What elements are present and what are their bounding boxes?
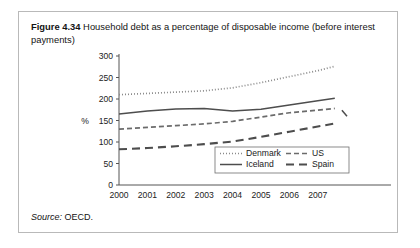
x-axis-tick-label: 2003 [195, 190, 214, 200]
source-value: OECD. [65, 212, 94, 222]
x-axis-tick-label: 2000 [109, 190, 128, 200]
figure-caption: Figure 4.34 Household debt as a percenta… [31, 20, 383, 46]
y-axis-tick-label: 100 [99, 137, 114, 147]
y-axis-tick-label: 300 [99, 51, 114, 61]
y-axis-tick-label: 150 [99, 116, 114, 126]
y-axis-tick-group: 050100150200250300 [99, 51, 119, 190]
series-endpoint-marker-iceland [342, 110, 347, 116]
figure-container: Figure 4.34 Household debt as a percenta… [18, 11, 398, 233]
figure-number: Figure 4.34 [31, 21, 81, 32]
line-chart: 050100150200250300 200020012002200320042… [19, 48, 397, 208]
legend-label-iceland: Iceland [246, 159, 274, 169]
legend-label-spain: Spain [312, 159, 334, 169]
y-axis-tick-label: 0 [108, 180, 113, 190]
x-axis-tick-label: 2005 [251, 190, 270, 200]
source-label: Source: [31, 212, 62, 222]
chart-legend: DenmarkUSIcelandSpain [215, 147, 349, 173]
y-axis-tick-label: 200 [99, 94, 114, 104]
series-group [119, 66, 347, 149]
y-axis-tick-label: 250 [99, 73, 114, 83]
x-axis-tick-label: 2004 [223, 190, 242, 200]
series-line-us [119, 108, 335, 129]
series-line-denmark [119, 66, 335, 94]
legend-label-us: US [312, 148, 324, 158]
source-note: Source: OECD. [31, 212, 93, 222]
y-axis-tick-label: 50 [103, 159, 113, 169]
figure-title: Household debt as a percentage of dispos… [31, 21, 375, 45]
x-axis-tick-label: 2007 [308, 190, 327, 200]
legend-label-denmark: Denmark [246, 148, 282, 158]
y-axis-title: % [81, 116, 89, 126]
x-axis-tick-label: 2006 [280, 190, 299, 200]
x-axis-tick-group: 20002001200220032004200520062007 [109, 190, 327, 200]
x-axis-tick-label: 2002 [166, 190, 185, 200]
x-axis-tick-label: 2001 [138, 190, 157, 200]
chart-canvas: 050100150200250300 200020012002200320042… [19, 48, 397, 208]
